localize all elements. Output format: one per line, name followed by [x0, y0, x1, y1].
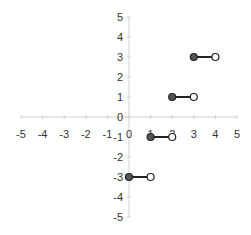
x-tick-label: 0: [126, 128, 132, 140]
open-endpoint-marker: [212, 54, 219, 61]
axes: [21, 17, 237, 217]
segment-4: [126, 174, 155, 181]
x-tick-label: -3: [59, 128, 69, 140]
y-tick-label: 1: [117, 91, 123, 103]
y-tick-label: -5: [113, 211, 123, 223]
open-endpoint-marker: [190, 94, 197, 101]
closed-endpoint-marker: [190, 54, 197, 61]
segment-1: [190, 54, 219, 61]
y-tick-label: -4: [113, 191, 123, 203]
y-tick-label: 5: [117, 11, 123, 23]
open-endpoint-marker: [169, 134, 176, 141]
x-tick-label: -2: [81, 128, 91, 140]
y-tick-label: -3: [113, 171, 123, 183]
x-tick-label: -4: [38, 128, 48, 140]
closed-endpoint-marker: [169, 94, 176, 101]
y-tick-label: 4: [117, 31, 123, 43]
x-tick-label: 5: [234, 128, 240, 140]
y-tick-label: -2: [113, 151, 123, 163]
step-function-chart: -5-4-3-2-1012345543210-1-2-3-4-5: [0, 0, 251, 235]
x-tick-label: -1: [103, 128, 113, 140]
x-tick-label: 4: [212, 128, 218, 140]
y-tick-label: 3: [117, 51, 123, 63]
y-tick-label: -1: [113, 131, 123, 143]
x-tick-label: -5: [16, 128, 26, 140]
segment-2: [169, 94, 198, 101]
y-tick-label: 2: [117, 71, 123, 83]
x-tick-label: 3: [191, 128, 197, 140]
segment-3: [147, 134, 176, 141]
open-endpoint-marker: [147, 174, 154, 181]
y-tick-label: 0: [117, 111, 123, 123]
closed-endpoint-marker: [126, 174, 133, 181]
closed-endpoint-marker: [147, 134, 154, 141]
